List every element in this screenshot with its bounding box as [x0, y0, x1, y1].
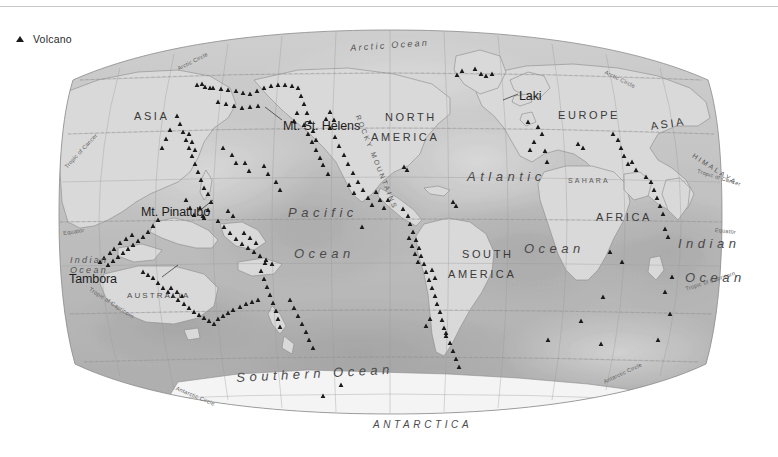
world-map-graphic	[58, 22, 723, 447]
screenshot-root: Volcano	[0, 0, 778, 457]
top-divider	[0, 6, 778, 7]
volcano-triangle-icon	[16, 36, 24, 42]
world-map[interactable]: Arctic OceanPacificOceanAtlanticOceanInd…	[58, 22, 723, 447]
